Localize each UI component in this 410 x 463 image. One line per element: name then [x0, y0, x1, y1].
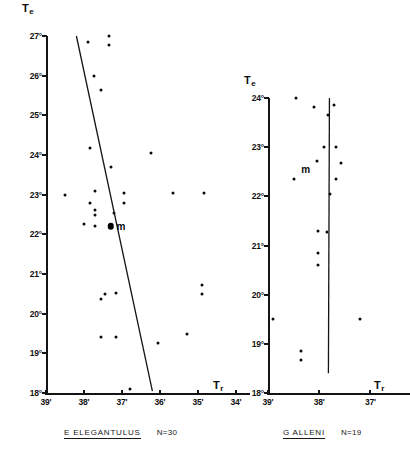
l-y-tick-label: 18° [16, 388, 42, 398]
l-x-tick [159, 390, 161, 395]
r-y-tick-label: 18° [238, 388, 264, 398]
data-point [292, 178, 295, 181]
right-y-axis-title: Te [244, 74, 255, 86]
data-point [185, 332, 188, 335]
l-y-tick [42, 75, 47, 77]
l-x-tick [121, 390, 123, 395]
l-x-tick-label: 36' [155, 397, 166, 407]
left-x-axis-line [46, 393, 250, 395]
data-point [317, 264, 320, 267]
l-x-tick [45, 390, 47, 395]
r-y-tick [264, 294, 269, 296]
data-point [107, 35, 110, 38]
l-x-tick-label: 38' [79, 397, 90, 407]
left-species-name: E ELEGANTULUS [64, 428, 141, 439]
data-point [100, 297, 103, 300]
data-point [83, 223, 86, 226]
left-sample-size: N=30 [157, 428, 178, 437]
r-x-tick-label: 39' [263, 397, 274, 407]
r-y-tick-label: 23° [238, 142, 264, 152]
data-point [317, 251, 320, 254]
l-y-tick [42, 233, 47, 235]
data-point [334, 178, 337, 181]
data-point [92, 74, 95, 77]
data-point [100, 336, 103, 339]
data-point [359, 318, 362, 321]
data-point [202, 191, 205, 194]
l-x-tick-label: 39' [41, 397, 52, 407]
l-x-tick [197, 390, 199, 395]
data-point [300, 358, 303, 361]
data-point [122, 191, 125, 194]
r-y-tick-label: 19° [238, 339, 264, 349]
data-point [109, 165, 112, 168]
l-y-tick [42, 273, 47, 275]
right-caption: G ALLENIN=19 [283, 428, 362, 437]
data-point [172, 191, 175, 194]
data-point [88, 201, 91, 204]
data-point [327, 114, 330, 117]
data-point [112, 211, 115, 214]
data-point [339, 161, 342, 164]
data-point [86, 40, 89, 43]
data-point [313, 105, 316, 108]
r-x-tick [369, 390, 371, 395]
l-x-tick-label: 35' [193, 397, 204, 407]
data-point [157, 342, 160, 345]
l-y-tick [42, 313, 47, 315]
data-point [332, 104, 335, 107]
r-y-tick [264, 146, 269, 148]
r-x-tick-label: 37' [365, 397, 376, 407]
data-point [103, 292, 106, 295]
r-y-tick [264, 245, 269, 247]
data-point [323, 146, 326, 149]
data-point [128, 388, 131, 391]
data-point [300, 350, 303, 353]
l-y-tick-label: 21° [16, 269, 42, 279]
r-x-tick-label: 38' [314, 397, 325, 407]
left-y-axis-title: Te [22, 2, 33, 14]
data-point [100, 88, 103, 91]
mean-point-marker [107, 223, 114, 230]
mean-point-label: m [301, 164, 310, 175]
l-y-tick-label: 24° [16, 150, 42, 160]
l-y-tick [42, 35, 47, 37]
l-y-tick [42, 154, 47, 156]
data-point [93, 214, 96, 217]
r-y-tick-label: 22° [238, 191, 264, 201]
data-point [325, 230, 328, 233]
left-x-axis-title: Tr [213, 379, 223, 391]
data-point [329, 192, 332, 195]
mean-point-label: m [117, 221, 126, 232]
r-x-tick [318, 390, 320, 395]
data-point [64, 193, 67, 196]
data-point [315, 159, 318, 162]
l-y-tick [42, 352, 47, 354]
left-y-axis-line [46, 36, 48, 395]
data-point [295, 97, 298, 100]
l-x-tick [83, 390, 85, 395]
data-point [107, 43, 110, 46]
r-y-tick [264, 195, 269, 197]
l-y-tick-label: 20° [16, 309, 42, 319]
right-species-name: G ALLENI [283, 428, 325, 439]
r-y-tick-label: 20° [238, 290, 264, 300]
r-x-tick [267, 390, 269, 395]
data-point [93, 225, 96, 228]
l-y-tick-label: 22° [16, 229, 42, 239]
data-point [200, 284, 203, 287]
right-y-axis-line [268, 98, 270, 395]
data-point [317, 229, 320, 232]
r-y-tick-label: 21° [238, 241, 264, 251]
l-x-tick-label: 34' [231, 397, 242, 407]
l-y-tick-label: 27° [16, 31, 42, 41]
l-y-tick-label: 19° [16, 348, 42, 358]
l-x-tick [235, 390, 237, 395]
l-y-tick [42, 194, 47, 196]
r-y-tick-label: 24° [238, 93, 264, 103]
l-y-tick-label: 25° [16, 110, 42, 120]
l-y-tick [42, 114, 47, 116]
right-x-axis-line [268, 393, 410, 395]
data-point [115, 292, 118, 295]
data-point [94, 189, 97, 192]
